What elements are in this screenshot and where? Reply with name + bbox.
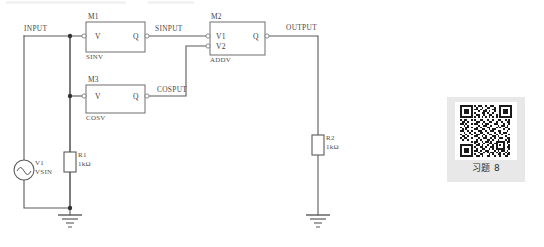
qr-caption: 习题 8 bbox=[447, 161, 525, 174]
block-model-m3: COSV bbox=[86, 115, 106, 122]
component-ref-r1: R1 bbox=[78, 152, 87, 159]
net-label-input: INPUT bbox=[24, 25, 47, 32]
block-ref-m3: M3 bbox=[88, 76, 99, 83]
component-ref-v1: V1 bbox=[35, 160, 44, 167]
pin-label-m2-v2: V2 bbox=[216, 43, 226, 51]
component-value-r2: 1kΩ bbox=[326, 144, 339, 151]
block-model-m2: ADDV bbox=[210, 57, 231, 64]
ground-symbol-left bbox=[58, 215, 82, 227]
ground-symbol-right bbox=[306, 215, 330, 227]
block-m1[interactable] bbox=[82, 22, 149, 52]
junction-dot bbox=[68, 34, 72, 38]
block-ref-m2: M2 bbox=[211, 13, 222, 20]
pin-label-m3-q: Q bbox=[133, 93, 139, 101]
junction-dot bbox=[68, 94, 72, 98]
qr-code-icon[interactable] bbox=[459, 105, 513, 157]
junction-dot bbox=[68, 206, 72, 210]
component-ref-r2: R2 bbox=[326, 135, 335, 142]
pin-label-m2-q: Q bbox=[253, 33, 259, 41]
qr-code-panel[interactable]: 习题 8 bbox=[447, 97, 525, 182]
net-label-cosput: COSPUT bbox=[157, 86, 187, 93]
component-value-v1: VSIN bbox=[35, 169, 52, 176]
block-model-m1: SINV bbox=[86, 54, 103, 61]
pin-label-m1-q: Q bbox=[133, 33, 139, 41]
pin-label-m2-v1: V1 bbox=[216, 33, 226, 41]
block-ref-m1: M1 bbox=[88, 13, 99, 20]
component-value-r1: 1kΩ bbox=[78, 161, 91, 168]
pin-label-m3-v: V bbox=[95, 93, 101, 101]
block-m3[interactable] bbox=[82, 85, 149, 113]
pin-label-m1-v: V bbox=[95, 33, 101, 41]
net-label-output: OUTPUT bbox=[286, 24, 317, 31]
net-label-sinput: SINPUT bbox=[155, 25, 183, 32]
sine-source-v1[interactable] bbox=[14, 160, 34, 180]
resistor-r1[interactable] bbox=[64, 152, 76, 172]
resistor-r2[interactable] bbox=[312, 135, 324, 155]
